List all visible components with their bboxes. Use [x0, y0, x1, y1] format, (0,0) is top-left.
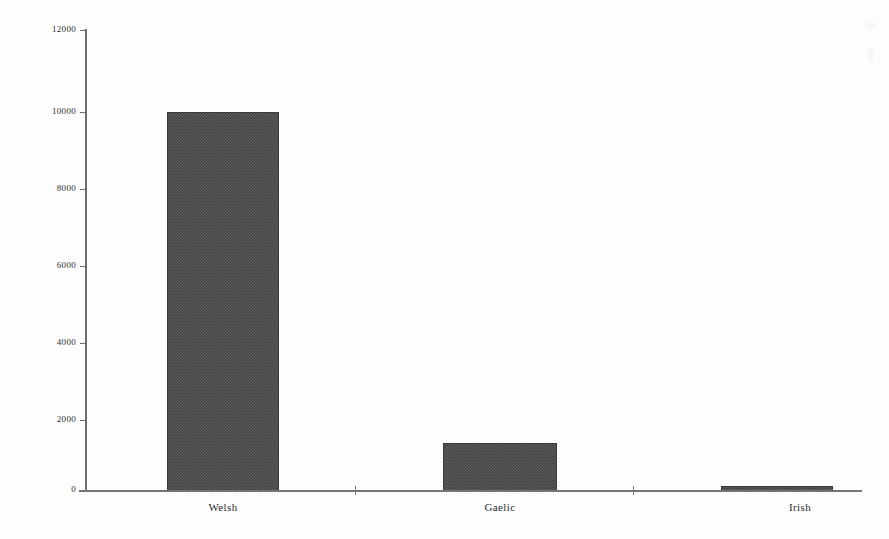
- y-axis-tick-label: 12000: [0, 24, 76, 34]
- y-axis-tick-12000: 12000: [0, 24, 76, 36]
- y-axis-tick-mark: [80, 420, 86, 421]
- y-axis-tick-label: 2000: [0, 414, 76, 424]
- y-axis-tick-label: 0: [0, 484, 76, 494]
- y-axis-tick-mark: [80, 266, 86, 267]
- y-axis-tick-mark: [80, 112, 86, 113]
- bar-gaelic[interactable]: [443, 443, 557, 491]
- x-axis-tick-mark: [355, 486, 356, 495]
- bar-welsh[interactable]: [167, 112, 279, 491]
- y-axis-tick-mark: [80, 189, 86, 190]
- y-axis-tick-label: 4000: [0, 337, 76, 347]
- x-axis-label-irish: Irish: [789, 501, 811, 513]
- y-axis-tick-10000: 10000: [0, 106, 76, 118]
- scan-artifact: [866, 22, 877, 29]
- y-axis-tick-mark: [80, 343, 86, 344]
- x-axis-tick-mark: [633, 486, 634, 495]
- y-axis-tick-0: 0: [0, 484, 76, 496]
- bar-chart-figure: 12000 10000 8000 6000 4000 2000 0: [0, 0, 889, 539]
- x-axis-label-gaelic: Gaelic: [484, 501, 515, 513]
- y-axis-tick-8000: 8000: [0, 183, 76, 195]
- y-axis-tick-label: 10000: [0, 106, 76, 116]
- y-axis-tick-label: 6000: [0, 260, 76, 270]
- scan-artifact: [868, 47, 873, 62]
- y-axis-tick-2000: 2000: [0, 414, 76, 426]
- y-axis-line: [85, 29, 87, 492]
- y-axis-tick-4000: 4000: [0, 337, 76, 349]
- y-axis-tick-mark: [80, 30, 86, 31]
- plot-area: 12000 10000 8000 6000 4000 2000 0: [0, 0, 889, 539]
- x-axis-line: [85, 490, 862, 492]
- y-axis-tick-label: 8000: [0, 183, 76, 193]
- y-axis-tick-6000: 6000: [0, 260, 76, 272]
- x-axis-label-welsh: Welsh: [208, 501, 237, 513]
